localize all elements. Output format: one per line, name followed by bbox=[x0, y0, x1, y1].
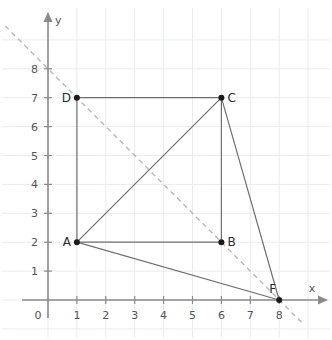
y-tick-label: 4 bbox=[31, 178, 38, 191]
segment-a-c bbox=[77, 98, 222, 243]
x-tick-label: 3 bbox=[131, 309, 138, 322]
point-dot-c bbox=[218, 95, 224, 101]
x-tick-label: 1 bbox=[73, 309, 80, 322]
y-axis-arrowhead bbox=[44, 12, 53, 22]
x-tick-label: 5 bbox=[189, 309, 196, 322]
y-tick-label: 6 bbox=[31, 121, 38, 134]
dashed-diagonal-line bbox=[5, 26, 304, 325]
point-dot-d bbox=[74, 95, 80, 101]
point-label-c: C bbox=[227, 91, 235, 105]
point-label-a: A bbox=[63, 235, 72, 249]
axis-names: xy bbox=[55, 14, 316, 295]
dashed-diagonal-line bbox=[5, 26, 304, 325]
axis-ticks bbox=[44, 69, 279, 304]
origin-label: 0 bbox=[35, 309, 42, 322]
point-dot-b bbox=[218, 239, 224, 245]
x-tick-label: 4 bbox=[160, 309, 167, 322]
axes bbox=[22, 12, 328, 318]
y-axis-name: y bbox=[55, 14, 62, 27]
y-tick-label: 5 bbox=[31, 150, 38, 163]
y-tick-label: 3 bbox=[31, 207, 38, 220]
grid-lines bbox=[2, 8, 330, 338]
point-label-d: D bbox=[62, 91, 71, 105]
point-dot-a bbox=[74, 239, 80, 245]
coordinate-plane-figure: 12345678012345678 ABCDF xy bbox=[0, 0, 332, 340]
point-label-f: F bbox=[269, 282, 276, 296]
coordinate-plot: 12345678012345678 ABCDF xy bbox=[0, 0, 332, 340]
point-dot-f bbox=[276, 297, 282, 303]
x-tick-label: 7 bbox=[247, 309, 254, 322]
x-axis-name: x bbox=[309, 282, 316, 295]
y-tick-label: 2 bbox=[31, 236, 38, 249]
y-tick-label: 8 bbox=[31, 63, 38, 76]
y-tick-label: 1 bbox=[31, 265, 38, 278]
x-axis-arrowhead bbox=[318, 296, 328, 305]
point-labels: ABCDF bbox=[62, 91, 277, 296]
x-tick-label: 8 bbox=[276, 309, 283, 322]
y-tick-label: 7 bbox=[31, 92, 38, 105]
x-tick-label: 2 bbox=[102, 309, 109, 322]
point-label-b: B bbox=[227, 235, 235, 249]
x-tick-label: 6 bbox=[218, 309, 225, 322]
